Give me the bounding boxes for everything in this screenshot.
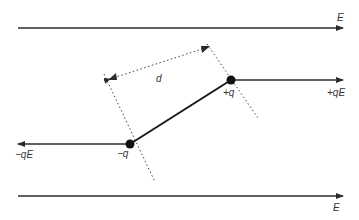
negative-charge-label: −q [117,148,129,159]
force-label-positive: +qE [327,87,345,98]
field-label-top: E [337,12,344,23]
separation-arrowhead-start [108,73,117,80]
separation-label: d [156,73,162,84]
separation-arrowhead-end [201,46,210,53]
dipole-diagram: E E d +qE −qE +q −q [0,0,359,220]
guide-line-negative [104,74,155,182]
dipole-rod [130,80,231,144]
field-label-bottom: E [333,202,340,213]
positive-charge-dot [227,76,236,85]
force-label-negative: −qE [15,149,33,160]
positive-charge-label: +q [223,87,235,98]
